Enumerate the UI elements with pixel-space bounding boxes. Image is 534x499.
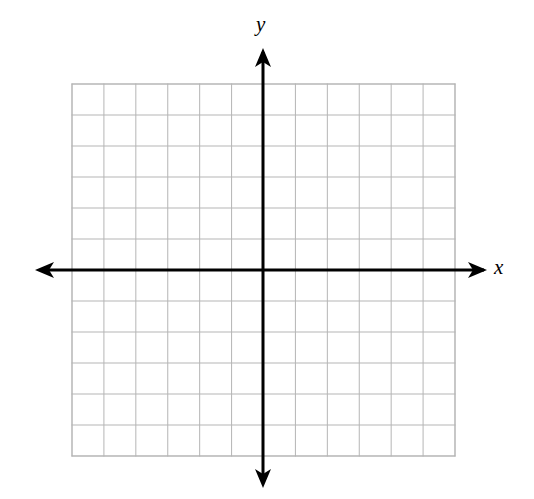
y-axis-label: y [256, 14, 265, 35]
x-axis-label: x [494, 257, 503, 278]
coordinate-plane-svg [0, 0, 534, 499]
coordinate-grid-figure: y x [0, 0, 534, 499]
